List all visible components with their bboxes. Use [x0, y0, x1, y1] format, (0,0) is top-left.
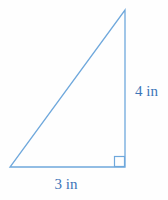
triangle-outline	[10, 10, 125, 167]
vertical-side-label: 4 in	[135, 83, 158, 99]
right-angle-marker	[115, 157, 125, 167]
figure-canvas: 4 in 3 in	[0, 0, 168, 200]
right-triangle-figure: 4 in 3 in	[0, 0, 168, 200]
horizontal-side-label: 3 in	[55, 176, 78, 192]
